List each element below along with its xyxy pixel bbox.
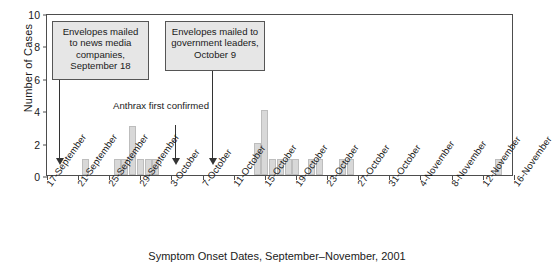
y-axis-tick-label: 10 (1, 9, 47, 21)
annotation-anthrax-confirmed: Anthrax first confirmed (111, 100, 211, 111)
y-axis-tick-label: 2 (1, 139, 47, 151)
y-axis-tick-label: 0 (1, 171, 47, 183)
y-axis-tick-mark (43, 144, 47, 145)
y-axis-tick-mark (43, 15, 47, 16)
annotation-media-envelopes-arrow-line (59, 80, 60, 158)
annotation-media-envelopes: Envelopes mailed to news media companies… (52, 21, 149, 80)
y-axis-tick-mark (43, 112, 47, 113)
y-axis-tick-mark (43, 47, 47, 48)
figure-caption: Symptom Onset Dates, September–November,… (0, 250, 554, 262)
bar (261, 110, 268, 175)
annotation-government-envelopes-arrow-line (212, 71, 213, 158)
epidemic-curve-figure: Number of Cases 0246810 Envelopes mailed… (0, 0, 554, 269)
y-axis-tick-label: 4 (1, 106, 47, 118)
annotation-anthrax-confirmed-arrow-head (172, 158, 180, 165)
y-axis-tick-label: 6 (1, 74, 47, 86)
y-axis-tick-label: 8 (1, 41, 47, 53)
y-axis-tick-mark (43, 79, 47, 80)
annotation-government-envelopes: Envelopes mailed to government leaders, … (165, 21, 265, 71)
